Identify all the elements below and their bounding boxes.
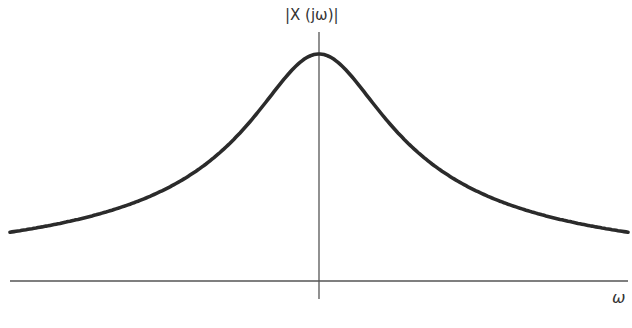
x-axis-label: ω (612, 288, 625, 307)
plot-canvas (0, 0, 632, 328)
y-axis-label: |X (jω)| (285, 6, 339, 24)
